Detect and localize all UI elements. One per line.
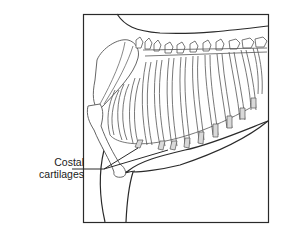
costal-cartilages	[135, 98, 256, 150]
thorax-diagram	[0, 0, 285, 233]
dorsal-outline	[117, 14, 268, 33]
humerus	[87, 104, 125, 177]
ventral-outline	[124, 121, 268, 173]
label-costal-cartilages: Costal cartilages	[22, 156, 84, 180]
vertebral-column	[136, 37, 267, 56]
foreleg-back	[126, 172, 133, 222]
label-line-1: Costal	[22, 156, 84, 168]
label-line-2: cartilages	[22, 168, 84, 180]
